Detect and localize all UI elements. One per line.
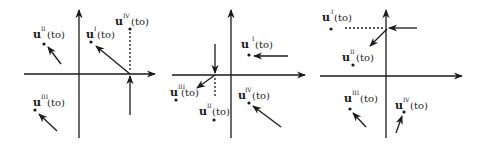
- svg-text:(to): (to): [97, 29, 115, 40]
- vector-u2: [370, 29, 387, 46]
- vector-u4: [253, 106, 281, 127]
- point-u3: [33, 108, 36, 111]
- vector-u3: [353, 113, 366, 127]
- svg-text:u: u: [342, 51, 350, 64]
- svg-text:(to): (to): [255, 39, 273, 50]
- label-u3: u III (to): [170, 83, 199, 99]
- point-u3: [174, 98, 177, 101]
- svg-text:u: u: [33, 28, 41, 41]
- point-u1: [329, 27, 332, 30]
- panel-1: u II (to) u I (to) u IV (to) u III (to): [24, 10, 155, 138]
- panel-2: u I (to) u III (to) u II (to) u IV (to): [170, 10, 305, 138]
- phase-plane-figure: u II (to) u I (to) u IV (to) u III (to): [0, 0, 484, 150]
- label-u2: u II (to): [342, 48, 374, 64]
- svg-text:(to): (to): [334, 12, 352, 23]
- point-u4: [402, 110, 405, 113]
- svg-text:IV: IV: [123, 12, 130, 19]
- point-u1: [247, 53, 250, 56]
- svg-text:(to): (to): [356, 52, 374, 63]
- label-u2: u II (to): [199, 102, 230, 118]
- svg-text:(to): (to): [410, 100, 428, 111]
- svg-text:u: u: [115, 15, 123, 28]
- label-u1: u I (to): [86, 25, 115, 41]
- svg-text:u: u: [170, 86, 178, 99]
- point-u3: [348, 107, 351, 110]
- svg-text:u: u: [241, 38, 249, 51]
- point-u4: [128, 27, 131, 30]
- vector-u1: [96, 46, 130, 74]
- point-u4: [247, 101, 250, 104]
- vector-u3: [39, 114, 57, 131]
- svg-text:II: II: [41, 25, 46, 32]
- svg-text:(to): (to): [212, 106, 230, 117]
- svg-text:(to): (to): [181, 87, 199, 98]
- label-u4: u IV (to): [115, 12, 149, 28]
- svg-text:(to): (to): [131, 16, 149, 27]
- point-u2: [351, 63, 354, 66]
- point-u1: [89, 40, 92, 43]
- label-u1: u I (to): [322, 8, 352, 24]
- svg-text:u: u: [199, 105, 207, 118]
- vector-u3: [197, 75, 215, 88]
- point-u2: [42, 42, 45, 45]
- svg-text:(to): (to): [47, 97, 65, 108]
- svg-text:(to): (to): [252, 90, 270, 101]
- label-u4: u IV (to): [238, 86, 270, 102]
- label-u4: u IV (to): [395, 96, 428, 112]
- svg-text:u: u: [344, 92, 352, 105]
- point-u2: [212, 118, 215, 121]
- vector-u4: [396, 116, 402, 133]
- svg-text:(to): (to): [47, 29, 65, 40]
- vector-u2: [48, 47, 61, 64]
- svg-text:u: u: [86, 28, 94, 41]
- panel-3: u I (to) u II (to) u III (to) u IV (to): [320, 8, 462, 138]
- label-u1: u I (to): [241, 35, 273, 51]
- svg-text:u: u: [322, 11, 330, 24]
- svg-text:III: III: [352, 89, 360, 96]
- svg-text:II: II: [350, 48, 355, 55]
- label-u3: u III (to): [33, 93, 65, 109]
- label-u3: u III (to): [344, 89, 378, 105]
- label-u2: u II (to): [33, 25, 65, 41]
- svg-text:u: u: [395, 99, 403, 112]
- svg-text:(to): (to): [360, 93, 378, 104]
- svg-text:u: u: [33, 96, 41, 109]
